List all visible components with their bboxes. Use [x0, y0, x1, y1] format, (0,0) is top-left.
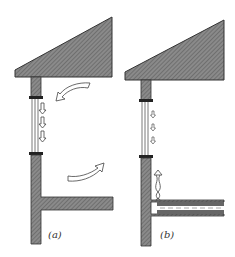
upper-wall-a [31, 77, 41, 97]
roof-b [125, 20, 224, 80]
window-a [32, 99, 38, 152]
panel-label-b: (b) [160, 229, 174, 240]
upper-wall-b [141, 80, 151, 100]
window-frame-bottom-a [29, 152, 43, 155]
panel-label-a: (a) [48, 229, 62, 240]
panel-a [15, 17, 113, 244]
downdraft-arrows-b [151, 111, 156, 144]
panel-b [125, 20, 224, 246]
curved-arrow-bottom-a [68, 163, 104, 181]
roof-a [15, 17, 112, 77]
window-frame-top-b [139, 99, 153, 102]
rising-air-arrow-b [154, 170, 162, 200]
floor-heating-duct-b [157, 202, 224, 214]
curved-arrow-top-a [56, 83, 90, 101]
window-b [142, 102, 148, 155]
window-frame-top-a [29, 96, 43, 99]
window-frame-bottom-b [139, 155, 153, 158]
downdraft-arrows-a [39, 103, 46, 142]
diagram-canvas [0, 0, 235, 257]
